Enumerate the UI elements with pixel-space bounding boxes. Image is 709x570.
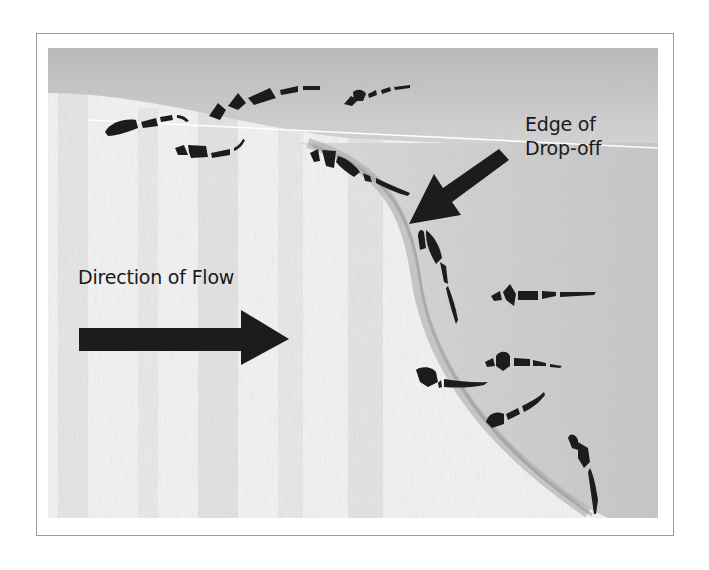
edge-of-drop-off-label: Edge of Drop-off (525, 112, 601, 160)
direction-of-flow-label: Direction of Flow (78, 265, 234, 289)
edge-label-line1: Edge of (525, 112, 601, 136)
edge-label-line2: Drop-off (525, 136, 601, 160)
